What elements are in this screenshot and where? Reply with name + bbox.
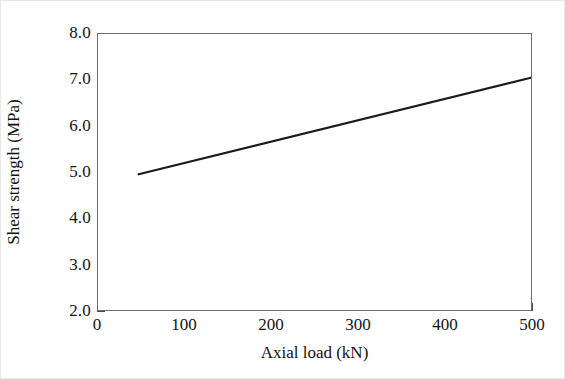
x-axis-tick-label: 300 xyxy=(323,316,393,333)
y-axis-tick-label: 3.0 xyxy=(31,256,91,273)
y-axis-tick-label: 5.0 xyxy=(31,163,91,180)
y-axis-title: Shear strength (MPa) xyxy=(5,99,24,244)
plot-area xyxy=(97,33,532,311)
y-axis-tick-label: 6.0 xyxy=(31,117,91,134)
x-axis-tick-label: 500 xyxy=(497,316,565,333)
chart-figure: Shear strength (MPa) 2.03.04.05.06.07.08… xyxy=(0,0,565,379)
y-axis-tick-label: 4.0 xyxy=(31,209,91,226)
y-axis-tick-label: 8.0 xyxy=(31,24,91,41)
x-axis-tick-label: 0 xyxy=(62,316,132,333)
series-line-shear-strength xyxy=(139,78,531,175)
x-axis-title: Axial load (kN) xyxy=(97,344,532,363)
x-axis-tick xyxy=(532,303,533,311)
y-axis-tick xyxy=(97,311,105,312)
y-axis-title-holder: Shear strength (MPa) xyxy=(1,33,27,311)
data-line-canvas xyxy=(98,34,531,310)
x-axis-tick-label: 200 xyxy=(236,316,306,333)
y-axis-tick-label: 7.0 xyxy=(31,70,91,87)
x-axis-tick-label: 100 xyxy=(149,316,219,333)
x-axis-tick-label: 400 xyxy=(410,316,480,333)
